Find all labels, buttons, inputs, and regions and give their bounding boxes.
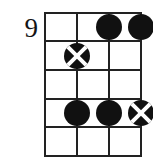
fretboard-grid <box>0 0 153 163</box>
fret-line-0 <box>44 12 142 14</box>
chord-marker-crossed-string2-fret2[interactable] <box>64 43 90 69</box>
chord-marker-crossed-string4-fret4[interactable] <box>128 100 153 126</box>
fret-line-2 <box>44 69 142 71</box>
fret-line-5 <box>44 155 142 157</box>
fret-line-3 <box>44 98 142 100</box>
chord-marker-dot-string3-fret1[interactable] <box>96 14 122 40</box>
chord-marker-dot-string4-fret1[interactable] <box>128 14 153 40</box>
string-2 <box>76 12 78 157</box>
fret-line-4 <box>44 126 142 128</box>
chord-marker-dot-string2-fret4[interactable] <box>64 100 90 126</box>
chord-diagram: 9 <box>0 0 153 163</box>
chord-marker-dot-string3-fret4[interactable] <box>96 100 122 126</box>
fret-line-1 <box>44 40 142 42</box>
string-1 <box>44 12 46 157</box>
